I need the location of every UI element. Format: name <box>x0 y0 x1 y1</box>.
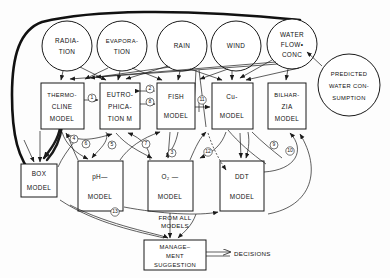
ddt-label-1: DDT <box>235 173 249 180</box>
edge-badge-label-12: 12 <box>205 148 211 154</box>
eutrophication-label-3: TION M <box>108 115 132 122</box>
predicted-label-1: PREDICTED <box>331 71 368 77</box>
fish-label-2: MODEL <box>164 112 189 119</box>
ph-label-2: MODEL <box>88 193 113 200</box>
edge-badge-label-2: 2 <box>149 85 152 91</box>
model-box-thermocline[interactable]: THERMO- CLINE MODEL <box>41 83 84 129</box>
edge-badge-label-6: 6 <box>85 140 88 146</box>
box-label-2: MODEL <box>27 184 52 191</box>
input-circle-radiation[interactable]: RADIA- TION <box>42 21 92 71</box>
input-circle-rain[interactable]: RAIN <box>157 21 207 71</box>
model-box-box[interactable]: BOX MODEL <box>21 164 57 197</box>
input-label-rain: RAIN <box>174 42 191 49</box>
edge-badge-label-7: 7 <box>145 140 148 146</box>
copper-label-1: Cu- <box>226 93 237 100</box>
diagram-canvas: RADIA- TION EVAPORA- TION RAIN WIND WATE… <box>0 0 390 278</box>
edge-badge-label-5: 5 <box>111 141 114 147</box>
input-label-waterflow-1: WATER <box>280 31 304 38</box>
input-label-waterflow-2: FLOW• <box>281 41 303 48</box>
edge-badge-7: 7 <box>142 140 150 148</box>
decisions-label: DECISIONS <box>234 250 271 257</box>
input-circle-wind[interactable]: WIND <box>211 21 261 71</box>
model-box-fish[interactable]: FISH MODEL <box>157 83 195 129</box>
edge-badge-label-11: 11 <box>199 96 204 102</box>
management-label-1: MANAGE– <box>160 244 191 250</box>
model-box-bilharzia[interactable]: BILHAR- ZIA MODEL <box>268 83 306 129</box>
edge-badge-label-4: 4 <box>73 135 76 141</box>
thermocline-label-2: CLINE <box>52 103 73 110</box>
model-box-copper[interactable]: Cu- MODEL <box>212 83 253 129</box>
edge-badge-label-13: 13 <box>112 208 118 214</box>
ddt-label-2: MODEL <box>230 193 255 200</box>
box-label-1: BOX <box>32 170 47 177</box>
edge-badge-1: 1 <box>88 94 96 102</box>
predicted-label-2: WATER CON- <box>329 83 369 89</box>
predicted-water-consumption-circle[interactable]: PREDICTED WATER CON- SUMPTION <box>318 54 380 116</box>
management-label-3: SUGGESTION <box>154 262 196 268</box>
edge-badge-8: 8 <box>146 98 154 106</box>
edge-badge-label-10: 10 <box>287 147 293 153</box>
input-label-evaporation-1: EVAPORA- <box>106 38 138 44</box>
edge-badge-9: 9 <box>270 141 278 149</box>
edge-badge-4: 4 <box>70 135 78 143</box>
management-suggestion-box[interactable]: MANAGE– MENT SUGGESTION <box>144 240 206 270</box>
o2-label-2: MODEL <box>158 193 183 200</box>
edge-decisions <box>206 252 230 256</box>
bilharzia-label-3: MODEL <box>275 115 300 122</box>
model-box-ph[interactable]: pH— MODEL <box>78 161 123 211</box>
edge-badge-label-1: 1 <box>91 94 94 100</box>
input-circle-evaporation[interactable]: EVAPORA- TION <box>97 21 147 71</box>
edge-badge-2: 2 <box>146 85 154 93</box>
o2-label-1: O₂ — <box>161 173 178 180</box>
bilharzia-label-1: BILHAR- <box>274 92 299 98</box>
edge-badge-3: 3 <box>168 149 176 157</box>
edge-badge-11: 11 <box>198 96 206 104</box>
edge-badge-5: 5 <box>108 141 116 149</box>
management-label-2: MENT <box>166 253 184 259</box>
edge-badge-10: 10 <box>286 147 294 155</box>
fish-label-1: FISH <box>168 93 184 100</box>
eutrophication-label-1: EUTRO- <box>107 91 134 98</box>
thermocline-label-1: THERMO- <box>47 92 77 98</box>
input-label-radiation-1: RADIA- <box>55 37 79 44</box>
thermocline-label-3: MODEL <box>50 115 75 122</box>
input-label-radiation-2: TION <box>59 48 76 55</box>
model-box-ddt[interactable]: DDT MODEL <box>220 161 264 211</box>
input-circle-water-flow-conc[interactable]: WATER FLOW• CONC <box>267 19 317 69</box>
eutrophication-label-2: PHICA- <box>108 103 132 110</box>
bilharzia-label-2: ZIA <box>282 103 293 110</box>
edge-badge-label-9: 9 <box>273 141 276 147</box>
input-label-waterflow-3: CONC <box>282 51 302 58</box>
edge-badge-6: 6 <box>82 140 90 148</box>
input-label-wind: WIND <box>227 42 245 49</box>
from-all-models-line-1: FROM ALL <box>158 214 191 221</box>
ph-label-1: pH— <box>92 173 108 181</box>
edge-badge-13: 13 <box>111 208 119 216</box>
annotation-from-all-models: FROM ALL MODELS <box>158 214 191 229</box>
from-all-models-line-2: MODELS <box>161 222 189 229</box>
edge-badge-label-8: 8 <box>149 98 152 104</box>
edge-badge-label-3: 3 <box>171 149 174 155</box>
predicted-label-3: SUMPTION <box>332 95 365 101</box>
model-box-o2[interactable]: O₂ — MODEL <box>148 161 193 211</box>
copper-label-2: MODEL <box>220 112 245 119</box>
input-label-evaporation-2: TION <box>114 48 131 55</box>
edge-badge-12: 12 <box>204 148 212 156</box>
ecosystem-model-diagram: RADIA- TION EVAPORA- TION RAIN WIND WATE… <box>0 0 390 278</box>
model-box-eutrophication[interactable]: EUTRO- PHICA- TION M <box>100 83 140 129</box>
